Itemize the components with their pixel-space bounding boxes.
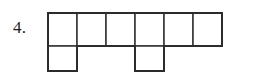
grid-cell-r0c0 [48, 13, 77, 46]
figure-page: 4. [0, 0, 268, 81]
grid-cell-r0c2 [106, 13, 135, 46]
polyomino-svg [46, 11, 226, 73]
grid-cell-r1c0 [48, 46, 77, 71]
grid-cell-r0c5 [193, 13, 222, 46]
grid-cell-r0c3 [135, 13, 164, 46]
grid-cell-r1c3 [135, 46, 164, 71]
polyomino-figure [46, 11, 226, 73]
grid-cell-r0c4 [164, 13, 193, 46]
item-number-label: 4. [13, 18, 26, 38]
grid-cell-r0c1 [77, 13, 106, 46]
